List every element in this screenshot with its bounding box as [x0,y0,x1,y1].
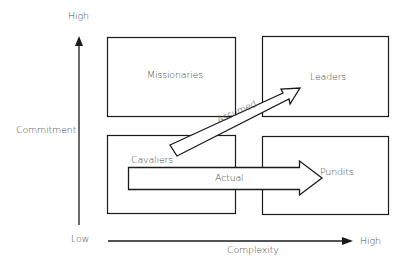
x-axis-arrowhead-icon [342,237,353,245]
y-axis-title: Commitment [16,124,76,135]
y-axis-arrowhead-icon [75,36,83,46]
y-axis [75,36,83,225]
quadrant-label-leaders: Leaders [310,71,346,82]
quadrant-label-pundits: Pundits [320,166,354,177]
actual-arrow-label: Actual [215,172,244,183]
x-axis-high-label: High [360,235,381,246]
quadrant-label-cavaliers: Cavaliers [131,154,173,165]
quadrant-label-missionaries: Missionaries [147,69,203,80]
x-axis-title: Complexity [227,244,279,255]
y-axis-high-label: High [68,10,89,21]
y-axis-low-label: Low [71,233,89,244]
